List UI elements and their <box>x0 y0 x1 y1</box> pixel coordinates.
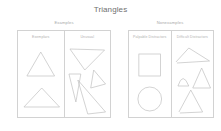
shape-group-unusual <box>65 44 111 119</box>
subcolumn-exemplars: Exemplars <box>18 31 64 117</box>
subcolumn-palpable-distractors: Palpable Distractors <box>129 31 171 117</box>
shape-group-difficult-distractors <box>172 44 214 119</box>
panel-header-examples: Examples <box>16 20 112 25</box>
wide-flat-triangle-shape <box>24 88 60 107</box>
subcolumn-label-unusual: Unusual <box>65 35 111 40</box>
rotated-scalene-triangle-shape <box>90 70 105 88</box>
panel-nonexamples: Palpable Distractors Difficult Distracto… <box>128 30 214 118</box>
subcolumn-difficult-distractors: Difficult Distractors <box>171 31 214 117</box>
curved-side-triangle-shape <box>177 79 188 87</box>
shape-group-exemplars <box>18 44 64 119</box>
circle-shape <box>138 87 162 111</box>
narrow-sliver-triangle-shape <box>68 74 80 102</box>
equilateral-triangle-shape <box>27 52 55 76</box>
panel-examples: Exemplars Unusual <box>17 30 111 118</box>
tall-triangle-shape <box>192 68 210 88</box>
subcolumn-label-exemplars: Exemplars <box>18 35 64 40</box>
subcolumn-label-difficult-distractors: Difficult Distractors <box>172 35 214 40</box>
page-title: Triangles <box>0 5 221 14</box>
obtuse-open-triangle-shape <box>175 48 209 63</box>
subcolumn-unusual: Unusual <box>64 31 111 117</box>
shape-group-palpable-distractors <box>129 44 171 119</box>
subcolumn-label-palpable-distractors: Palpable Distractors <box>129 35 171 40</box>
square-shape <box>139 54 161 76</box>
panel-header-nonexamples: Nonexamples <box>126 20 214 25</box>
open-base-triangle-shape <box>178 90 202 113</box>
inverted-triangle-shape <box>69 49 104 70</box>
